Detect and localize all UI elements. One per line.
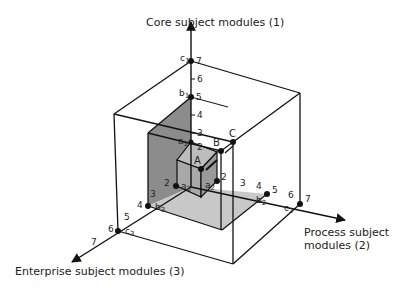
axis-3-tick-4: 4 <box>137 200 143 210</box>
axis-3-tick-6: 6 <box>108 224 114 234</box>
axis-1-tick-3: 3 <box>197 128 203 138</box>
label-cube-b: B <box>213 137 220 148</box>
axis-1-tick-7: 7 <box>196 56 202 66</box>
axis-1-tick-6: 6 <box>197 74 203 84</box>
axis-2-tick-5: 5 <box>272 185 278 195</box>
axis-3-tick-2: 2 <box>164 178 170 188</box>
axis-2-tick-6: 6 <box>288 190 294 200</box>
axis-3-tick-5: 5 <box>124 212 130 222</box>
axis-2-title-line2: modules (2) <box>304 239 370 252</box>
axis-3-title: Enterprise subject modules (3) <box>15 265 184 278</box>
label-c1: c1 <box>180 53 189 65</box>
label-b1: b1 <box>179 88 189 100</box>
label-cube-c: C <box>229 128 236 139</box>
label-cube-a: A <box>194 155 201 166</box>
axis-2-tick-7: 7 <box>305 194 311 204</box>
axis-1-title: Core subject modules (1) <box>146 16 284 29</box>
axis-2-title-line1: Process subject <box>304 226 389 239</box>
axis-2-tick-4: 4 <box>256 181 262 191</box>
axis-3-line <box>72 187 191 262</box>
label-b2: b2 <box>256 195 266 207</box>
label-c2: c2 <box>284 203 293 215</box>
axis-3-tick-7: 7 <box>91 237 97 247</box>
axis-3-tick-3: 3 <box>150 189 156 199</box>
axis-1-tick-4: 4 <box>197 110 203 120</box>
axis-1-tick-5: 5 <box>196 92 202 102</box>
axis-2-tick-3: 3 <box>240 178 246 188</box>
axis-1-tick-2: 2 <box>197 142 203 152</box>
axis-2-tick-2: 2 <box>221 172 227 182</box>
label-c3: c3 <box>125 226 134 238</box>
